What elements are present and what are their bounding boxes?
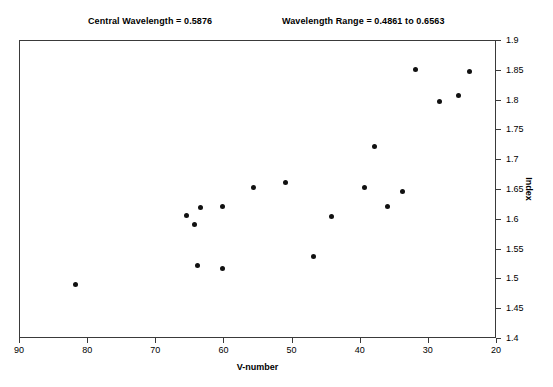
y-axis-tick	[496, 338, 501, 339]
data-point	[362, 185, 367, 190]
data-point	[456, 93, 461, 98]
x-axis-tick	[87, 338, 88, 343]
data-point	[220, 266, 225, 271]
data-point	[192, 222, 197, 227]
data-point	[184, 213, 189, 218]
x-axis-tick	[223, 338, 224, 343]
data-point	[329, 214, 334, 219]
y-axis-tick	[496, 129, 501, 130]
y-axis-tick	[496, 189, 501, 190]
y-axis-tick	[496, 100, 501, 101]
y-axis-tick-label: 1.45	[506, 303, 524, 313]
y-axis-tick	[496, 70, 501, 71]
data-point	[73, 282, 78, 287]
y-axis-tick-label: 1.4	[506, 333, 519, 343]
x-axis-tick	[292, 338, 293, 343]
data-point	[195, 263, 200, 268]
data-point	[311, 254, 316, 259]
y-axis-tick-label: 1.65	[506, 184, 524, 194]
y-axis-tick	[496, 40, 501, 41]
x-axis-tick	[155, 338, 156, 343]
y-axis-tick-label: 1.6	[506, 214, 519, 224]
x-axis-tick-label: 40	[355, 345, 365, 355]
x-axis-tick	[360, 338, 361, 343]
data-point	[283, 180, 288, 185]
y-axis-title: Index	[524, 177, 534, 201]
data-point	[467, 69, 472, 74]
y-axis-tick	[496, 308, 501, 309]
y-axis-tick-label: 1.85	[506, 65, 524, 75]
x-axis-tick	[19, 338, 20, 343]
data-point	[372, 144, 377, 149]
plot-data-area	[20, 41, 495, 337]
x-axis-tick-label: 90	[14, 345, 24, 355]
plot-frame	[19, 40, 496, 338]
scatter-chart-figure: Central Wavelength = 0.5876 Wavelength R…	[0, 0, 553, 387]
x-axis-tick-label: 50	[287, 345, 297, 355]
data-point	[400, 189, 405, 194]
data-point	[251, 185, 256, 190]
y-axis-tick	[496, 278, 501, 279]
data-point	[198, 205, 203, 210]
y-axis-tick-label: 1.8	[506, 95, 519, 105]
y-axis-tick-label: 1.9	[506, 35, 519, 45]
x-axis-tick-label: 20	[491, 345, 501, 355]
x-axis-tick-label: 70	[150, 345, 160, 355]
y-axis-tick-label: 1.7	[506, 154, 519, 164]
data-point	[385, 204, 390, 209]
y-axis-tick	[496, 249, 501, 250]
data-point	[437, 99, 442, 104]
x-axis-title: V-number	[0, 362, 515, 372]
y-axis-tick	[496, 219, 501, 220]
y-axis-tick-label: 1.55	[506, 244, 524, 254]
y-axis-tick	[496, 159, 501, 160]
data-point	[413, 67, 418, 72]
data-point	[220, 204, 225, 209]
x-axis-tick-label: 60	[218, 345, 228, 355]
y-axis-tick-label: 1.5	[506, 273, 519, 283]
wavelength-range-annotation: Wavelength Range = 0.4861 to 0.6563	[282, 16, 445, 26]
x-axis-tick-label: 30	[423, 345, 433, 355]
y-axis-tick-label: 1.75	[506, 124, 524, 134]
x-axis-tick-label: 80	[82, 345, 92, 355]
central-wavelength-annotation: Central Wavelength = 0.5876	[88, 16, 212, 26]
x-axis-tick	[428, 338, 429, 343]
